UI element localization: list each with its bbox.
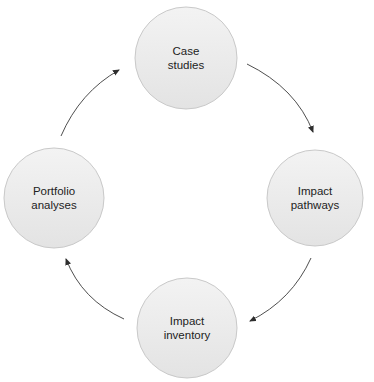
node-circle (4, 148, 104, 248)
node-circle (267, 150, 363, 246)
arrow-impact-pathways-to-impact-inventory (250, 258, 311, 321)
node-impact-inventory: Impact inventory (137, 278, 237, 378)
node-circle (137, 278, 237, 378)
node-label-line1: Impact (298, 185, 333, 197)
arrow-portfolio-analyses-to-case-studies (61, 70, 119, 136)
node-label-line1: Case (173, 45, 200, 57)
node-label-line2: inventory (164, 329, 211, 341)
node-label-line1: Impact (170, 315, 205, 327)
node-impact-pathways: Impact pathways (267, 150, 363, 246)
node-portfolio-analyses: Portfolio analyses (4, 148, 104, 248)
node-circle (135, 7, 237, 109)
node-label-line2: pathways (291, 199, 340, 211)
node-label-line2: analyses (31, 199, 77, 211)
arrow-impact-inventory-to-portfolio-analyses (66, 259, 124, 319)
node-label-line2: studies (168, 59, 205, 71)
cycle-diagram: Case studies Impact pathways Impact inve… (0, 0, 374, 382)
node-label-line1: Portfolio (33, 185, 75, 197)
node-case-studies: Case studies (135, 7, 237, 109)
arrow-case-studies-to-impact-pathways (247, 64, 313, 132)
